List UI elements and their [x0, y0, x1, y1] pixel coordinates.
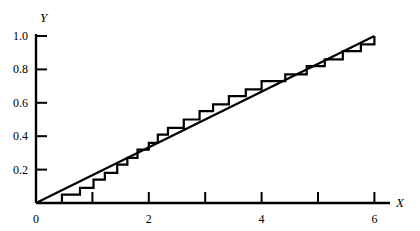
y-tick-label: 0.4	[13, 129, 28, 143]
chart-plot-area: 0.20.40.60.81.0 0246 Y X	[0, 0, 420, 231]
y-tick-label: 0.8	[13, 62, 28, 76]
chart-figure: 0.20.40.60.81.0 0246 Y X	[0, 0, 420, 231]
reference-diagonal-line	[36, 36, 374, 203]
x-axis-ticks	[92, 192, 374, 202]
y-axis-tick-labels: 0.20.40.60.81.0	[13, 29, 28, 177]
x-axis-label: X	[395, 195, 405, 210]
y-axis-ticks	[37, 36, 47, 170]
x-tick-label: 0	[33, 212, 39, 226]
x-tick-label: 6	[371, 212, 377, 226]
y-axis-label: Y	[40, 10, 49, 25]
x-axis-tick-labels: 0246	[33, 212, 377, 226]
y-tick-label: 0.6	[13, 96, 28, 110]
x-tick-label: 4	[259, 212, 265, 226]
y-tick-label: 1.0	[13, 29, 28, 43]
x-tick-label: 2	[146, 212, 152, 226]
y-tick-label: 0.2	[13, 163, 28, 177]
